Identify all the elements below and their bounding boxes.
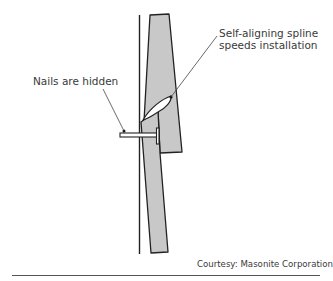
spline-callout-line-2: speeds installation <box>219 39 318 51</box>
spline-callout-line-1: Self-aligning spline <box>219 27 318 39</box>
nail-head <box>157 128 160 144</box>
spline-callout-label: Self-aligning spline speeds installation <box>219 27 318 51</box>
credit-line: Courtesy: Masonite Corporation <box>197 259 333 269</box>
nails-callout-label: Nails are hidden <box>33 75 118 87</box>
nail-shaft <box>120 133 158 137</box>
spline-leader-line <box>171 36 217 97</box>
nails-leader-line <box>103 89 124 131</box>
horizontal-rule <box>12 275 320 276</box>
